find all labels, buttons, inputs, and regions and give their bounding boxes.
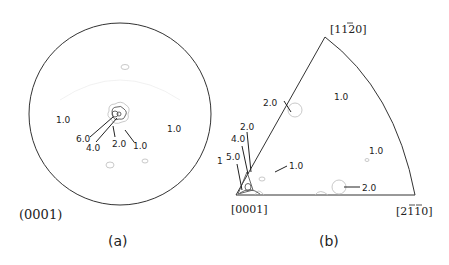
leader-line bbox=[113, 126, 115, 137]
leader-line bbox=[242, 146, 248, 174]
contour-label: 4.0 bbox=[86, 143, 101, 153]
ipf-triangle bbox=[236, 37, 415, 195]
contour-label: 1.0 bbox=[167, 124, 182, 134]
contour-label: 1.0 bbox=[133, 141, 148, 151]
contour-faint bbox=[332, 180, 346, 194]
contour-label: 1 bbox=[217, 156, 223, 166]
plane-label: (0001) bbox=[19, 207, 62, 222]
leader-line bbox=[275, 166, 287, 172]
corner-label-11-20: [1120] bbox=[330, 23, 367, 36]
contour-faint bbox=[259, 177, 265, 181]
corner-label-0001: [0001] bbox=[231, 203, 268, 216]
inverse-pole-figure-panel-b: 2.0 1.0 1.0 1.0 2.0 2.0 4.0 5.0 1 [0001]… bbox=[217, 23, 433, 249]
contour-label: 2.0 bbox=[240, 122, 255, 132]
contour-faint bbox=[365, 159, 369, 162]
contour-label: 2.0 bbox=[112, 139, 127, 149]
leader-line bbox=[247, 132, 251, 172]
contour-faint bbox=[315, 192, 328, 196]
contour-faint bbox=[106, 162, 114, 168]
contour-label: 1.0 bbox=[369, 146, 384, 156]
corner-label-2-1-10: [2110] bbox=[396, 205, 433, 218]
contour-label: 5.0 bbox=[226, 152, 241, 162]
contour-faint bbox=[121, 65, 129, 70]
contour-label: 1.0 bbox=[334, 92, 349, 102]
pole-figure-panel-a: 1.0 1.0 6.0 4.0 2.0 1.0 (0001) (a) bbox=[19, 23, 211, 249]
svg-text:[2110]: [2110] bbox=[396, 205, 433, 218]
svg-text:[1120]: [1120] bbox=[330, 23, 367, 36]
leader-line bbox=[237, 164, 242, 190]
pole-figure-circle bbox=[29, 23, 211, 205]
contour-2 bbox=[112, 106, 126, 119]
contour-label: 1.0 bbox=[56, 115, 71, 125]
texture-figure: 1.0 1.0 6.0 4.0 2.0 1.0 (0001) (a) 2.0 1… bbox=[0, 0, 449, 265]
caption-a: (a) bbox=[108, 233, 128, 249]
contour-label: 1.0 bbox=[289, 161, 304, 171]
contour-label: 4.0 bbox=[231, 134, 246, 144]
contour-label: 2.0 bbox=[362, 183, 377, 193]
contour-faint bbox=[60, 80, 180, 100]
caption-b: (b) bbox=[319, 233, 339, 249]
contour-faint bbox=[142, 159, 148, 163]
contour-label: 2.0 bbox=[263, 98, 278, 108]
